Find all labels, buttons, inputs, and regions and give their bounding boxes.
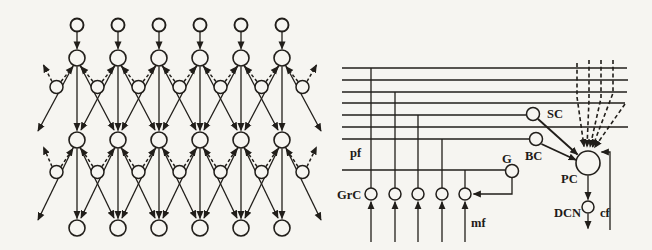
output-neuron-circle [192,220,208,236]
interneuron-circle [132,81,145,94]
granule-cell-circle [365,188,377,200]
interneuron-circle [50,166,63,179]
basket-cell-circle [530,133,543,146]
input-neuron-circle [276,19,289,32]
upper-main-neuron-circle [233,50,249,66]
lower-main-neuron-circle [69,132,85,148]
interneuron-circle [214,166,227,179]
upper-main-neuron-circle [110,50,126,66]
lower-main-neuron-circle [233,132,249,148]
lower-main-neuron-circle [274,132,290,148]
dcn-cell-circle [582,201,594,213]
granule-cell-circle [436,188,448,200]
output-neuron-circle [233,220,249,236]
input-neuron-circle [71,19,84,32]
purkinje-cell-circle [576,151,600,175]
stellate-cell-circle [527,108,540,121]
lower-main-neuron-circle [151,132,167,148]
interneuron-circle [173,81,186,94]
lower-main-neuron-circle [192,132,208,148]
label-SC: SC [547,107,563,121]
output-neuron-circle [110,220,126,236]
interneuron-circle [296,81,309,94]
label-pf: pf [350,146,362,160]
input-neuron-circle [194,19,207,32]
circuit-figure: pfGrCmfGBCSCPCDCNcf [0,0,652,250]
output-neuron-circle [151,220,167,236]
interneuron-circle [91,166,104,179]
upper-main-neuron-circle [69,50,85,66]
label-G: G [502,152,512,166]
label-PC: PC [561,172,578,186]
upper-main-neuron-circle [192,50,208,66]
lower-main-neuron-circle [110,132,126,148]
interneuron-circle [296,166,309,179]
upper-main-neuron-circle [274,50,290,66]
interneuron-circle [91,81,104,94]
label-mf: mf [471,216,486,230]
label-cf: cf [600,206,611,220]
granule-cell-circle [412,188,424,200]
upper-main-neuron-circle [151,50,167,66]
label-DCN: DCN [554,206,581,220]
interneuron-circle [214,81,227,94]
label-BC: BC [525,149,542,163]
interneuron-circle [255,81,268,94]
output-neuron-circle [69,220,85,236]
input-neuron-circle [153,19,166,32]
interneuron-circle [50,81,63,94]
interneuron-circle [255,166,268,179]
output-neuron-circle [274,220,290,236]
granule-cell-circle [459,188,471,200]
figure-canvas: pfGrCmfGBCSCPCDCNcf [0,0,652,250]
input-neuron-circle [112,19,125,32]
granule-cell-circle [389,188,401,200]
interneuron-circle [132,166,145,179]
interneuron-circle [173,166,186,179]
input-neuron-circle [235,19,248,32]
label-GrC: GrC [337,188,361,202]
golgi-cell-circle [506,165,519,178]
